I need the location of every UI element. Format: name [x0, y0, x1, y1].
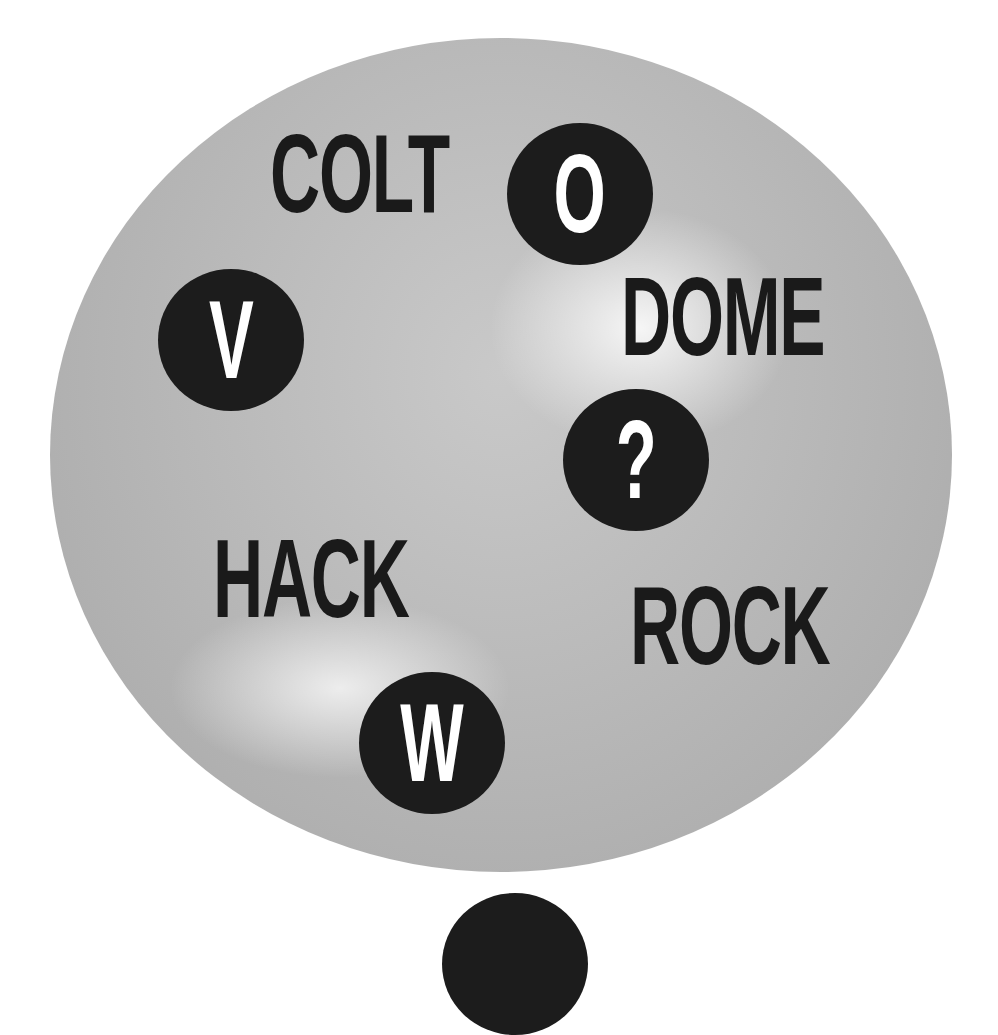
token-w: W: [359, 672, 505, 814]
token-v: V: [158, 269, 304, 411]
word-colt: COLT: [270, 118, 449, 230]
token-partial-bottom: [442, 893, 588, 1035]
token-w-label: W: [400, 687, 463, 799]
word-hack: HACK: [213, 523, 409, 635]
word-rock: ROCK: [630, 570, 829, 682]
word-dome: DOME: [621, 261, 824, 373]
token-o-label: O: [554, 138, 606, 250]
token-v-label: V: [209, 284, 254, 396]
token-question-label: ?: [615, 404, 656, 516]
token-o: O: [507, 123, 653, 265]
token-question: ?: [563, 389, 709, 531]
